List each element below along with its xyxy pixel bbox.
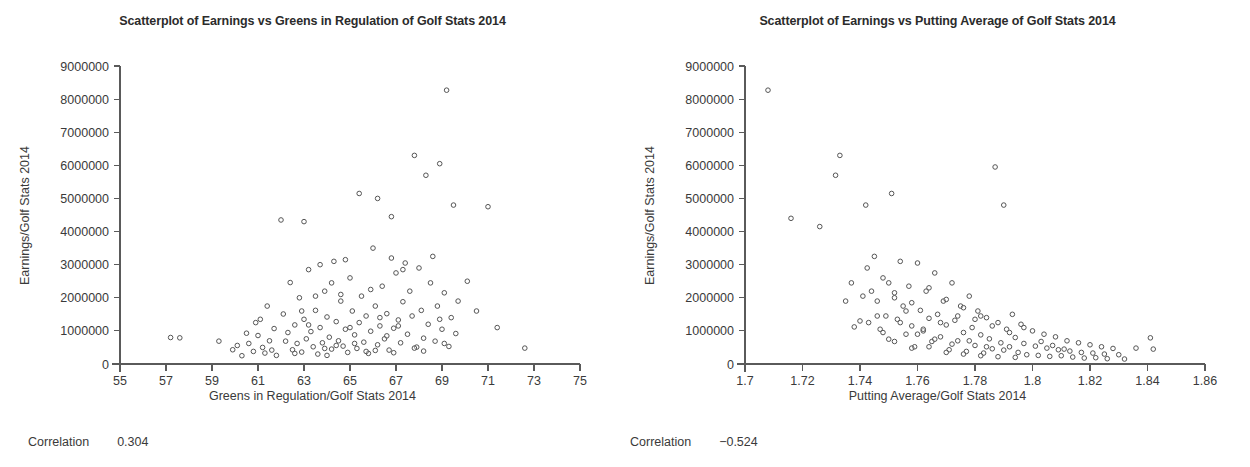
data-point (385, 334, 390, 339)
data-point (932, 337, 937, 342)
data-point (1062, 347, 1067, 352)
data-point (921, 327, 926, 332)
data-point-group (168, 88, 527, 358)
data-point (1088, 343, 1093, 348)
data-point (401, 267, 406, 272)
data-point (299, 350, 304, 355)
data-point (435, 304, 440, 309)
data-point (1001, 348, 1006, 353)
data-point (817, 224, 822, 229)
data-point (359, 294, 364, 299)
svg-text:4000000: 4000000 (60, 225, 109, 239)
data-point (433, 339, 438, 344)
data-point (396, 324, 401, 329)
svg-text:1.8: 1.8 (1024, 374, 1041, 388)
svg-text:7000000: 7000000 (685, 126, 734, 140)
svg-text:2000000: 2000000 (685, 291, 734, 305)
data-point (904, 309, 909, 314)
data-point (833, 173, 838, 178)
data-point (984, 315, 989, 320)
data-point (258, 317, 263, 322)
svg-text:61: 61 (251, 374, 265, 388)
data-point (375, 343, 380, 348)
data-point (341, 344, 346, 349)
data-point (364, 314, 369, 319)
figure-canvas: Scatterplot of Earnings vs Greens in Reg… (0, 0, 1250, 467)
data-point (371, 246, 376, 251)
data-point (442, 291, 447, 296)
data-point (866, 320, 871, 325)
data-point (1059, 353, 1064, 358)
data-point (283, 339, 288, 344)
data-point (421, 336, 426, 341)
data-point (944, 350, 949, 355)
correlation-value-right: −0.524 (719, 435, 758, 449)
data-point (1016, 350, 1021, 355)
data-point (336, 339, 341, 344)
data-point (886, 337, 891, 342)
svg-text:5000000: 5000000 (685, 192, 734, 206)
data-point (927, 286, 932, 291)
data-point (967, 294, 972, 299)
data-point (426, 322, 431, 327)
data-point (898, 320, 903, 325)
data-point (970, 325, 975, 330)
correlation-row-left: Correlation0.304 (28, 435, 148, 449)
data-point (318, 262, 323, 267)
data-point (881, 330, 886, 335)
data-point (412, 346, 417, 351)
data-point (996, 354, 1001, 359)
data-point (990, 346, 995, 351)
data-point (428, 281, 433, 286)
data-point (440, 327, 445, 332)
data-point (424, 173, 429, 178)
chart-panel-left: Scatterplot of Earnings vs Greens in Reg… (0, 0, 625, 467)
data-point (978, 314, 983, 319)
data-point (1022, 325, 1027, 330)
data-point (1013, 335, 1018, 340)
data-point (295, 341, 300, 346)
data-point (1056, 347, 1061, 352)
data-point (412, 153, 417, 158)
data-point (339, 292, 344, 297)
x-axis-title-left: Greens in Regulation/Golf Stats 2014 (0, 389, 625, 403)
data-point (990, 324, 995, 329)
data-point (352, 341, 357, 346)
data-point (419, 308, 424, 313)
data-point (474, 309, 479, 314)
svg-text:63: 63 (297, 374, 311, 388)
data-point (401, 299, 406, 304)
data-point (843, 299, 848, 304)
data-point (260, 345, 265, 350)
data-point (389, 214, 394, 219)
data-point (1068, 349, 1073, 354)
data-point (274, 353, 279, 358)
data-point (343, 257, 348, 262)
data-point (909, 324, 914, 329)
data-point (357, 320, 362, 325)
data-point (950, 281, 955, 286)
data-point (1030, 329, 1035, 334)
data-point (955, 314, 960, 319)
data-point (421, 349, 426, 354)
data-point (442, 341, 447, 346)
data-point (313, 308, 318, 313)
correlation-label-left: Correlation (28, 435, 89, 449)
correlation-row-right: Correlation−0.524 (630, 435, 758, 449)
data-point (1033, 344, 1038, 349)
data-point (1013, 355, 1018, 360)
data-point (1007, 330, 1012, 335)
data-point (886, 281, 891, 286)
svg-text:1000000: 1000000 (60, 324, 109, 338)
svg-text:57: 57 (159, 374, 173, 388)
data-point (311, 344, 316, 349)
data-point (235, 343, 240, 348)
data-point (306, 267, 311, 272)
svg-text:9000000: 9000000 (685, 60, 734, 74)
data-point (861, 294, 866, 299)
data-point (1122, 357, 1127, 362)
data-point (996, 320, 1001, 325)
svg-text:6000000: 6000000 (60, 159, 109, 173)
data-point (389, 256, 394, 261)
data-point (901, 304, 906, 309)
